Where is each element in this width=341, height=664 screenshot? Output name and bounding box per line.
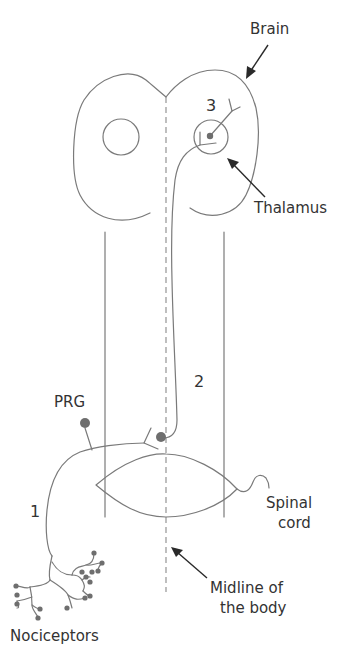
thalamus-label: Thalamus xyxy=(254,199,327,218)
spinal-nerve-tail xyxy=(237,475,269,491)
thalamus-arrow xyxy=(227,158,265,197)
prg-ganglion xyxy=(80,418,90,428)
nociceptors-label: Nociceptors xyxy=(10,627,99,646)
midline-label-line1: Midline of xyxy=(210,579,283,598)
neuron-1-label: 1 xyxy=(30,502,40,521)
neuron-2-axon xyxy=(163,145,200,438)
brain-arrow xyxy=(246,45,268,79)
neuron-3-cell-body xyxy=(207,133,213,139)
pain-pathway-diagram xyxy=(0,0,341,664)
neuron-3-label: 3 xyxy=(206,96,216,115)
prg-label: PRG xyxy=(54,393,85,412)
spinal-cord-label-line2: cord xyxy=(278,514,311,533)
nociceptor-tree xyxy=(13,550,104,620)
neuron-1-terminal xyxy=(144,428,158,449)
brain-label: Brain xyxy=(250,20,289,39)
neuron-2-cell-body xyxy=(156,432,166,442)
left-thalamus-circle xyxy=(103,119,139,155)
neuron-2-label: 2 xyxy=(194,372,204,391)
prg-stalk xyxy=(85,428,92,450)
spinal-cord-label-line1: Spinal xyxy=(266,494,312,513)
midline-arrow xyxy=(171,547,207,578)
neuron-3-dendrite xyxy=(229,99,240,111)
neuron-1-axon xyxy=(46,443,144,556)
midline-label-line2: the body xyxy=(220,599,286,618)
